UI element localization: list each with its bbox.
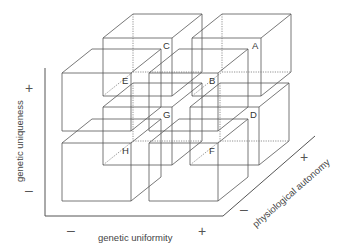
cube-edge [172, 141, 202, 165]
cube-label-c: C [163, 40, 170, 51]
cube-label-d: D [250, 109, 257, 120]
cube-a: A [192, 14, 291, 96]
cube-label-g: G [163, 109, 170, 120]
cube-label-a: A [252, 40, 259, 51]
cube-edge [261, 14, 291, 38]
horizontal-axis-plus: + [198, 223, 206, 239]
vertical-axis-label: genetic uniqueness [14, 100, 25, 182]
axes [45, 68, 315, 216]
cube-edge [218, 119, 248, 143]
cube-edge [131, 49, 161, 73]
cube-hidden-edge [190, 141, 220, 165]
vertical-axis-minus: – [25, 182, 33, 198]
depth-axis-label: physiological autonomy [250, 156, 332, 229]
cube-edge [259, 141, 289, 165]
cube-hidden-edge [192, 72, 222, 96]
horizontal-axis-label: genetic uniformity [98, 232, 173, 243]
three-axis-cube-diagram: CAGDEBHF + – genetic uniqueness – + gene… [0, 0, 343, 251]
cube-g: G [103, 83, 202, 165]
depth-axis-plus: + [300, 149, 308, 165]
cube-edge [218, 49, 248, 73]
cube-label-f: F [209, 145, 215, 156]
cube-edge [190, 83, 220, 107]
cube-edge [192, 14, 222, 38]
cube-edge [103, 14, 133, 38]
cube-d: D [190, 83, 289, 165]
cube-label-h: H [122, 145, 129, 156]
cube-c: C [103, 14, 202, 96]
vertical-axis-plus: + [25, 80, 33, 96]
depth-axis-minus: – [240, 201, 248, 217]
cube-edge [218, 177, 248, 201]
cube-group: CAGDEBHF [62, 14, 291, 201]
cube-edge [172, 83, 202, 107]
cube-edge [259, 83, 289, 107]
cube-edge [261, 72, 291, 96]
cube-edge [103, 83, 133, 107]
cube-edge [172, 14, 202, 38]
cube-edge [149, 49, 179, 73]
cube-label-e: E [122, 75, 128, 86]
cube-label-b: B [209, 75, 215, 86]
cube-hidden-edge [103, 72, 133, 96]
cube-edge [172, 72, 202, 96]
horizontal-axis-minus: – [67, 222, 75, 238]
cube-edge [62, 49, 92, 73]
cube-edge [131, 177, 161, 201]
